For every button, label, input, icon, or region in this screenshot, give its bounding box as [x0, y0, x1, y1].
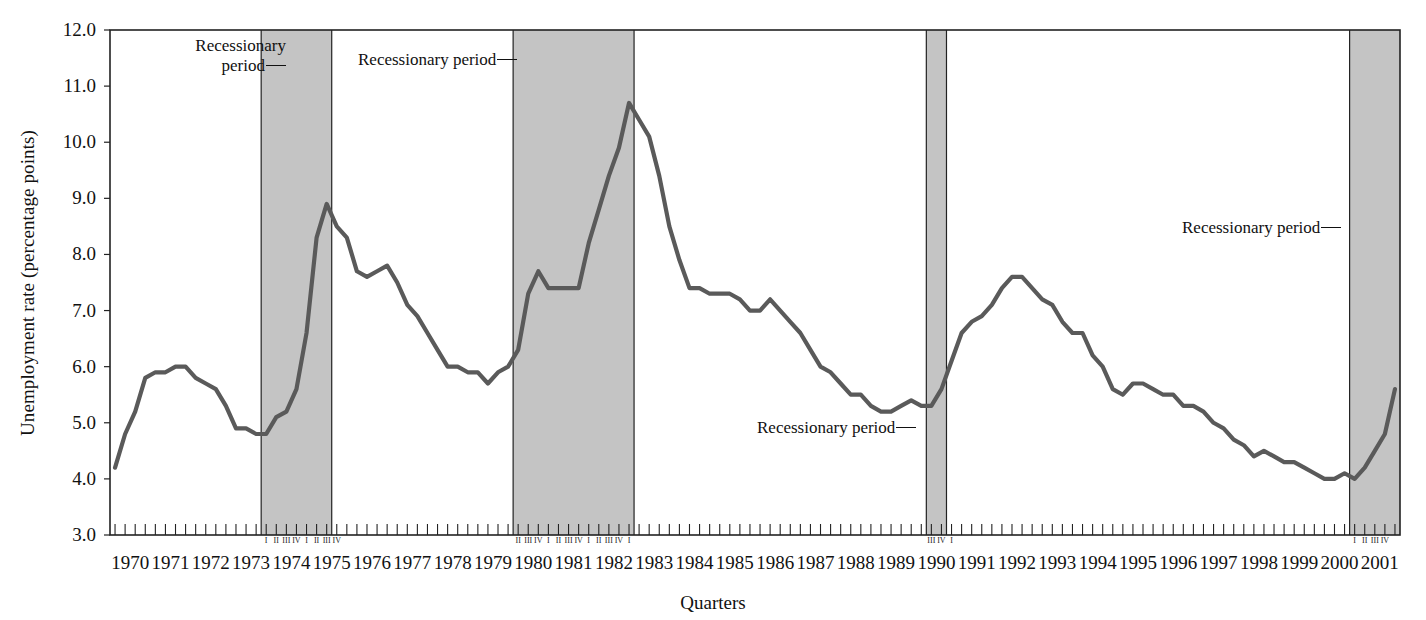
year-label-1972: 1972	[189, 552, 233, 574]
year-label-1974: 1974	[269, 552, 313, 574]
year-label-1971: 1971	[148, 552, 192, 574]
year-label-1998: 1998	[1237, 552, 1281, 574]
year-label-1996: 1996	[1156, 552, 1200, 574]
year-label-1992: 1992	[995, 552, 1039, 574]
year-label-1985: 1985	[713, 552, 757, 574]
chart-figure: Unemployment rate (percentage points) Qu…	[0, 0, 1426, 620]
leader-line-icon	[1321, 227, 1341, 228]
year-label-1989: 1989	[874, 552, 918, 574]
annotation-text-line1: Recessionary period	[1182, 218, 1320, 237]
year-label-1994: 1994	[1076, 552, 1120, 574]
year-label-1999: 1999	[1277, 552, 1321, 574]
leader-line-icon	[896, 427, 916, 428]
year-label-1977: 1977	[390, 552, 434, 574]
year-label-1978: 1978	[431, 552, 475, 574]
year-label-2001: 2001	[1358, 552, 1402, 574]
year-label-1986: 1986	[753, 552, 797, 574]
year-label-1997: 1997	[1197, 552, 1241, 574]
annotation-recessionary-period-1: Recessionary period	[168, 36, 286, 76]
year-label-1981: 1981	[552, 552, 596, 574]
annotation-text-line1: Recessionary	[195, 36, 286, 55]
year-label-1970: 1970	[108, 552, 152, 574]
annotation-text-line1: Recessionary period	[757, 418, 895, 437]
recession-band-3	[926, 30, 946, 535]
year-label-1976: 1976	[350, 552, 394, 574]
year-label-1990: 1990	[914, 552, 958, 574]
year-label-1995: 1995	[1116, 552, 1160, 574]
year-label-1982: 1982	[592, 552, 636, 574]
year-label-1979: 1979	[471, 552, 515, 574]
year-label-1984: 1984	[673, 552, 717, 574]
quarter-tick-labels: IIIIIIIVIIIIIIIVIIIIIIVIIIIIIIVIIIIIIIVI…	[110, 536, 1400, 550]
year-label-1993: 1993	[1035, 552, 1079, 574]
year-label-1987: 1987	[793, 552, 837, 574]
year-label-1975: 1975	[310, 552, 354, 574]
quarter-label-4-4: IV	[1375, 536, 1395, 545]
year-label-1973: 1973	[229, 552, 273, 574]
year-label-1988: 1988	[834, 552, 878, 574]
annotation-recessionary-period-4: Recessionary period	[1182, 218, 1341, 238]
annotation-recessionary-period-2: Recessionary period	[358, 50, 517, 70]
quarter-label-3-3: I	[942, 536, 962, 545]
plot-area	[0, 0, 1426, 620]
quarter-label-2-12: I	[619, 536, 639, 545]
annotation-recessionary-period-3: Recessionary period	[757, 418, 916, 438]
year-label-1991: 1991	[955, 552, 999, 574]
annotation-text-line1: Recessionary period	[358, 50, 496, 69]
x-axis-year-labels: 1970197119721973197419751976197719781979…	[110, 552, 1400, 578]
leader-line-icon	[497, 59, 517, 60]
leader-line-icon	[266, 65, 286, 66]
year-label-2000: 2000	[1318, 552, 1362, 574]
recession-band-1	[261, 30, 332, 535]
year-label-1980: 1980	[511, 552, 555, 574]
year-label-1983: 1983	[632, 552, 676, 574]
quarter-label-1-8: IV	[327, 536, 347, 545]
annotation-text-line2: period	[222, 56, 265, 75]
recession-band-4	[1350, 30, 1400, 535]
